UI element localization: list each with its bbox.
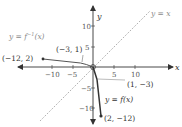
- inverse-label: y = f−1(x): [8, 31, 45, 41]
- inverse-curve: [43, 59, 93, 67]
- point-label-1-m3: (1, −3): [127, 80, 154, 89]
- leader-m3-1: [82, 55, 83, 62]
- function-inverse-plot: −10 −5 5 10 10 5 −5 −10 x y y = x y = f−…: [0, 0, 182, 127]
- point-label-m3-1: (−3, 1): [56, 45, 83, 54]
- tick-y-m10: −10: [79, 105, 94, 113]
- tick-x-10: 10: [131, 71, 140, 79]
- identity-label: y = x: [150, 9, 171, 18]
- tick-y-5: 5: [85, 44, 89, 52]
- tick-x-m5: −5: [67, 71, 77, 79]
- tick-y-10: 10: [82, 23, 91, 31]
- y-axis-label: y: [96, 12, 102, 21]
- function-endpoint: [99, 114, 102, 117]
- x-axis-label: x: [175, 63, 180, 72]
- point-label-m12-2: (−12, 2): [2, 54, 33, 63]
- tick-x-5: 5: [112, 71, 116, 79]
- leader-1-m3: [97, 79, 125, 80]
- function-label: y = f(x): [104, 95, 133, 104]
- inverse-endpoint: [42, 58, 45, 61]
- function-curve: [93, 67, 101, 116]
- tick-y-m5: −5: [81, 85, 91, 93]
- tick-x-m10: −10: [45, 71, 60, 79]
- point-label-2-m12: (2, −12): [104, 114, 135, 123]
